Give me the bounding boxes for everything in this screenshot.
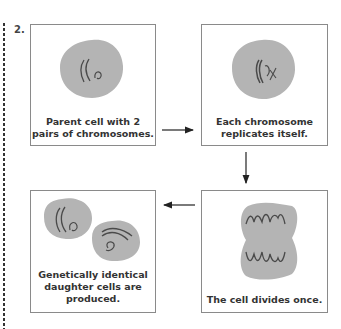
daughter-cell-icon <box>92 220 140 261</box>
daughter-cell-icon <box>44 198 92 239</box>
replicating-cell-icon <box>232 40 295 99</box>
diagram-graphics <box>0 0 341 329</box>
dividing-cell-icon <box>241 203 298 280</box>
parent-cell-icon <box>60 40 123 98</box>
